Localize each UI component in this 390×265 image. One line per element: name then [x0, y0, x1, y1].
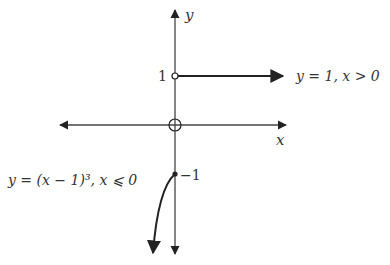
x-axis-label: x	[276, 131, 285, 149]
y-axis-label: y	[184, 6, 194, 24]
piece-2-label: y = (x − 1)³, x ⩽ 0	[7, 172, 137, 188]
piece-constant-ray	[172, 73, 283, 79]
closed-dot-icon	[172, 171, 177, 176]
tick-label-1: 1	[158, 68, 167, 84]
piece-cubic-curve	[153, 171, 178, 253]
tick-label-neg1: −1	[180, 167, 201, 183]
piecewise-function-graph: y x 1 −1 y = 1, x > 0 y = (x − 1)³, x ⩽ …	[0, 0, 390, 265]
open-circle-icon	[172, 73, 178, 79]
piece-1-label: y = 1, x > 0	[295, 68, 380, 84]
